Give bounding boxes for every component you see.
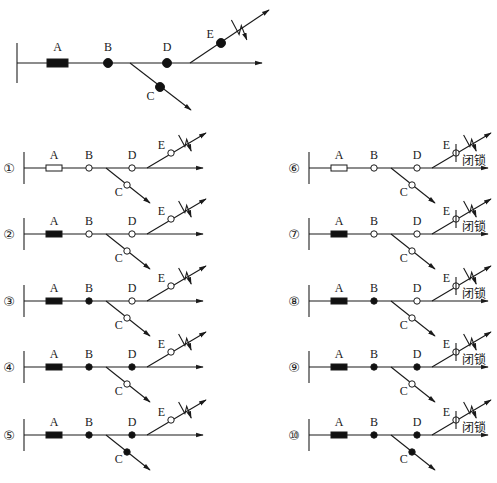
label-d: D [163,40,172,54]
label-b: B [85,214,93,228]
switch-d-open [414,165,420,171]
label-a: A [53,40,62,54]
switch-e-closed [217,39,226,48]
label-b: B [85,347,93,361]
switch-e-open [168,216,174,222]
label-d: D [128,347,137,361]
switch-e-open [168,417,174,423]
switch-c-closed [156,83,165,92]
scenario-number: ⑧ [288,294,300,309]
switch-e-open [168,283,174,289]
switch-c-closed [124,449,130,455]
branch-e-line [147,400,206,435]
switch-d-closed [414,432,420,438]
label-b: B [370,415,378,429]
label-e: E [158,337,165,351]
label-b: B [370,281,378,295]
label-a: A [50,415,59,429]
switch-c-open [409,381,415,387]
label-c: C [115,452,123,466]
label-e: E [158,405,165,419]
scenario-1: ①ABDCE [3,133,206,203]
label-b: B [85,148,93,162]
label-a: A [50,214,59,228]
label-d: D [413,347,422,361]
scenario-7: ⑦闭锁ABDCE [288,199,491,269]
scenario-8: ⑧闭锁ABDCE [288,266,491,336]
scenario-number: ⑩ [288,428,300,443]
switch-b-closed [86,432,92,438]
label-e: E [207,27,214,41]
label-a: A [50,148,59,162]
breaker-a-closed [46,231,62,237]
label-d: D [128,214,137,228]
label-e: E [158,204,165,218]
scenario-2: ②ABDCE [3,199,206,269]
switch-b-closed [86,298,92,304]
feeder-switching-diagram: ABDCE ①ABDCE②ABDCE③ABDCE④ABDCE⑤ABDCE⑥闭锁A… [0,0,497,483]
switch-d-open [129,165,135,171]
label-d: D [413,214,422,228]
label-e: E [158,138,165,152]
label-c: C [115,185,123,199]
branch-e-line [147,133,206,168]
scenario-number: ⑤ [3,428,15,443]
switch-b-closed [371,432,377,438]
label-a: A [50,347,59,361]
label-d: D [128,281,137,295]
scenario-number: ⑨ [288,360,300,375]
switch-b-closed [371,364,377,370]
switch-b-closed [104,59,113,68]
label-d: D [413,281,422,295]
switch-d-open [129,231,135,237]
breaker-a-closed [331,364,347,370]
breaker-a-closed [331,231,347,237]
switch-b-open [371,165,377,171]
label-e: E [443,138,450,152]
label-d: D [413,148,422,162]
lock-label: 闭锁 [462,153,486,168]
lock-label: 闭锁 [462,219,486,234]
label-c: C [147,89,155,103]
label-c: C [115,251,123,265]
scenario-number: ② [3,227,15,242]
label-b: B [370,148,378,162]
lock-label: 闭锁 [462,286,486,301]
scenario-number: ③ [3,294,15,309]
label-c: C [400,318,408,332]
scenario-number: ① [3,161,15,176]
scenario-6: ⑥闭锁ABDCE [288,133,491,203]
breaker-a-closed [46,298,62,304]
switch-d-open [414,231,420,237]
branch-e-line [147,332,206,367]
scenario-number: ⑥ [288,161,300,176]
breaker-a-closed [331,298,347,304]
main-diagram: ABDCE [17,10,269,110]
switch-c-open [409,182,415,188]
label-b: B [85,281,93,295]
scenario-number: ④ [3,360,15,375]
breaker-a-open [46,165,62,171]
label-a: A [335,214,344,228]
lock-label: 闭锁 [462,352,486,367]
switch-d-closed [129,432,135,438]
switch-d-open [414,298,420,304]
breaker-a-closed [46,364,62,370]
label-e: E [443,271,450,285]
label-a: A [335,148,344,162]
breaker-a-closed [47,59,68,67]
label-c: C [400,251,408,265]
label-c: C [400,452,408,466]
scenario-9: ⑨闭锁ABDCE [288,332,491,402]
breaker-a-open [331,165,347,171]
label-a: A [335,415,344,429]
scenario-5: ⑤ABDCE [3,400,206,470]
switch-c-open [409,248,415,254]
switch-c-open [124,248,130,254]
label-e: E [158,271,165,285]
label-a: A [335,347,344,361]
label-d: D [128,148,137,162]
scenario-diagrams: ①ABDCE②ABDCE③ABDCE④ABDCE⑤ABDCE⑥闭锁ABDCE⑦闭… [3,133,491,470]
branch-e-line [147,199,206,234]
scenario-number: ⑦ [288,227,300,242]
